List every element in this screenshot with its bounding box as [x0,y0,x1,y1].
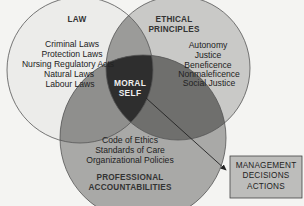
ethical-item: Justice [195,50,222,60]
professional-item: Organizational Policies [86,155,173,165]
law-item: Criminal Laws [45,39,99,49]
ethical-title-line: PRINCIPLES [148,25,199,34]
ethical-item: Social Justice [183,78,236,88]
law-item: Nursing Regulatory Acts [22,59,114,69]
professional-title-line: ACCOUNTABILITIES [88,183,171,192]
law-item: Natural Laws [44,69,94,79]
professional-item: Code of Ethics [102,135,158,145]
outcome-box-line: DECISIONS [243,171,290,180]
law-item: Labour Laws [45,79,94,89]
professional-title-line: PROFESSIONAL [97,173,164,182]
moral-self-label-line: MORAL [114,78,146,88]
ethical-title-line: ETHICAL [156,15,193,24]
moral-self-label-line: SELF [119,88,142,98]
ethical-item: Autonomy [189,40,228,50]
venn-diagram: LAW Criminal Laws Protection Laws Nursin… [0,0,304,206]
law-title: LAW [68,15,87,24]
outcome-box-line: ACTIONS [247,182,285,191]
law-item: Protection Laws [41,49,102,59]
outcome-box-line: MANAGEMENT [236,161,297,170]
professional-item: Standards of Care [95,145,165,155]
